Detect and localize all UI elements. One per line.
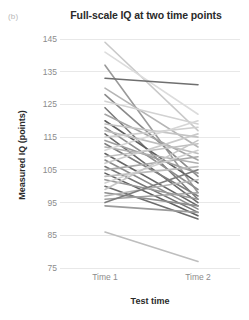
gridlines (60, 39, 240, 268)
x-tick-label: Time 1 (92, 272, 118, 282)
chart-figure: (b) Full-scale IQ at two time points Mea… (0, 0, 249, 320)
series-line (105, 232, 198, 261)
plot-area (0, 0, 249, 320)
x-tick-label: Time 2 (185, 272, 211, 282)
series-lines (105, 42, 198, 261)
